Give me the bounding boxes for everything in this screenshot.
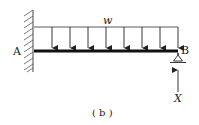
fixed-wall-support bbox=[24, 10, 33, 72]
label-a: A bbox=[13, 46, 21, 57]
label-b: B bbox=[181, 45, 189, 56]
label-load-w: w bbox=[103, 15, 112, 26]
caption: ( b ) bbox=[92, 108, 113, 118]
load-arrows bbox=[52, 27, 178, 48]
beam bbox=[34, 50, 178, 53]
label-reaction-x: X bbox=[174, 93, 182, 104]
